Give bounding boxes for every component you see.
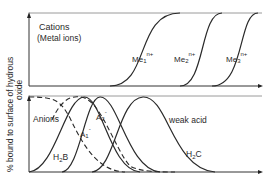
curve-me1 bbox=[110, 13, 180, 86]
anions-title: Anions bbox=[33, 114, 59, 124]
curve-me2 bbox=[180, 13, 222, 86]
label-me3: Me3n+ bbox=[226, 51, 248, 64]
curve-a1-dashed bbox=[29, 97, 125, 172]
label-me1: Me1n+ bbox=[132, 51, 154, 64]
x-axis-arrow-icon bbox=[258, 84, 263, 88]
adsorption-diagram: Cations (Metal ions) Me1n+ Me2n+ Me3n+ A… bbox=[0, 0, 263, 178]
y-axis-label-line1: % bound to surface of hydrous bbox=[5, 57, 15, 172]
label-a1: A1- bbox=[80, 126, 91, 139]
curve-me3 bbox=[212, 13, 258, 86]
label-weak-acid: weak acid bbox=[168, 115, 207, 125]
label-h2b: H2B bbox=[53, 152, 68, 163]
curve-a2-dashed bbox=[52, 97, 175, 172]
y-axis-label-line2: oxide bbox=[14, 79, 24, 100]
top-panel: Cations (Metal ions) Me1n+ Me2n+ Me3n+ bbox=[27, 12, 263, 88]
label-h2c: H2C bbox=[186, 149, 202, 160]
metal-ions-subtitle: (Metal ions) bbox=[37, 33, 82, 43]
cations-title: Cations bbox=[39, 22, 70, 32]
y-axis-label-2: oxide bbox=[14, 79, 24, 100]
bottom-panel: Anions A1- A2- H2B weak acid H2C bbox=[27, 95, 263, 174]
curve-weak-acid-h2c bbox=[92, 97, 215, 172]
label-me2: Me2n+ bbox=[174, 51, 196, 64]
y-axis-label: % bound to surface of hydrous bbox=[5, 57, 15, 172]
x-axis-arrow-icon bbox=[258, 170, 263, 174]
